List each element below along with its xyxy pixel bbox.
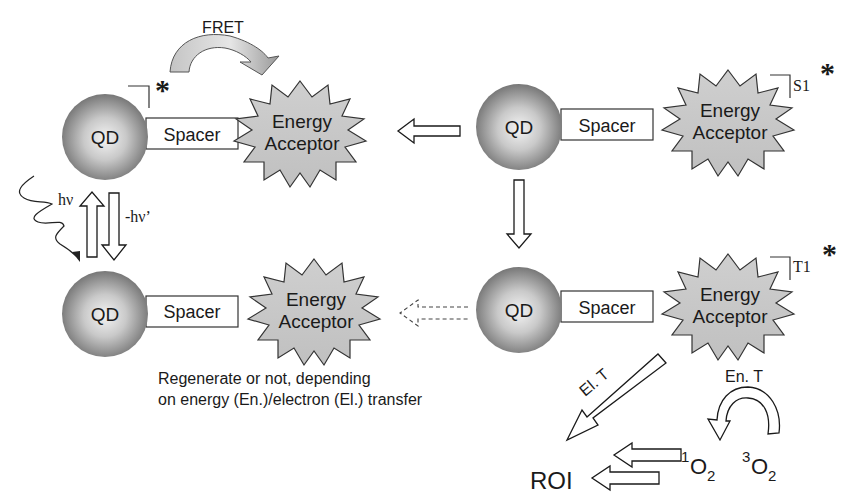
- state-label-s1: S1: [793, 77, 810, 94]
- acceptor-label-line2: Acceptor: [265, 133, 341, 154]
- electron-transfer: El. T: [567, 354, 666, 440]
- arrow-down-emit-icon: [102, 193, 126, 260]
- triplet-oxygen-sub: 2: [768, 467, 776, 484]
- conjugate-top-left: QD Spacer Energy Acceptor * FRET: [62, 19, 366, 187]
- spacer-label: Spacer: [163, 125, 220, 145]
- emission-label: -hν’: [125, 208, 151, 225]
- arrow-up-absorb-icon: [80, 192, 104, 257]
- acceptor-label-line1: Energy: [272, 111, 333, 132]
- fret-label: FRET: [202, 19, 244, 36]
- arrow-to-roi-icon: [592, 466, 659, 490]
- arrow-left-icon: [398, 119, 460, 143]
- electron-transfer-label: El. T: [576, 365, 612, 399]
- absorption-label: hν: [58, 191, 73, 208]
- conjugate-bottom-right: QD Spacer Energy Acceptor T1 *: [476, 237, 837, 360]
- excited-state-asterisk: *: [820, 56, 835, 89]
- spacer-label: Spacer: [578, 116, 635, 136]
- energy-transfer-label: En. T: [725, 368, 763, 385]
- energy-transfer: En. T: [708, 368, 779, 440]
- arrow-electron-transfer-icon: [567, 354, 666, 440]
- triplet-oxygen-base: O: [751, 454, 768, 479]
- arrow-energy-transfer-icon: [708, 387, 779, 440]
- qd-label: QD: [505, 117, 534, 138]
- qd-label: QD: [505, 300, 534, 321]
- products: ROI 1 O 2 3 O 2: [530, 443, 776, 494]
- acceptor-label-line1: Energy: [700, 284, 761, 305]
- arrow-down-icon: [507, 180, 531, 248]
- arrow-left-dashed-icon: [400, 300, 468, 326]
- diagram-canvas: QD Spacer Energy Acceptor * FRET QD Spac…: [0, 0, 862, 502]
- fret-arrow-icon: [170, 35, 279, 76]
- conjugate-bottom-left: QD Spacer Energy Acceptor: [62, 259, 380, 365]
- light-wave-arrowhead-icon: [72, 251, 80, 262]
- caption-line1: Regenerate or not, depending: [158, 370, 371, 387]
- singlet-oxygen-sup: 1: [681, 448, 689, 465]
- qd-label: QD: [91, 304, 120, 325]
- triplet-oxygen-sup: 3: [742, 448, 750, 465]
- arrow-singlet-to-roi-icon: [614, 443, 681, 467]
- roi-label: ROI: [530, 467, 573, 494]
- spacer-label: Spacer: [578, 298, 635, 318]
- excited-state-asterisk: *: [155, 73, 170, 106]
- qd-label: QD: [91, 127, 120, 148]
- acceptor-label-line1: Energy: [700, 100, 761, 121]
- excited-state-asterisk: *: [822, 237, 837, 270]
- acceptor-label-line2: Acceptor: [693, 306, 769, 327]
- caption: Regenerate or not, depending on energy (…: [158, 370, 423, 408]
- excitation-emission: hν -hν’: [19, 176, 150, 262]
- spacer-label: Spacer: [163, 302, 220, 322]
- singlet-oxygen-base: O: [690, 454, 707, 479]
- light-wave-icon: [19, 176, 76, 256]
- caption-line2: on energy (En.)/electron (El.) transfer: [158, 391, 423, 408]
- acceptor-label-line1: Energy: [286, 289, 347, 310]
- acceptor-label-line2: Acceptor: [693, 122, 769, 143]
- conjugate-top-right: QD Spacer Energy Acceptor S1 *: [476, 56, 835, 176]
- singlet-oxygen-sub: 2: [707, 467, 715, 484]
- state-label-t1: T1: [793, 258, 811, 275]
- acceptor-label-line2: Acceptor: [279, 311, 355, 332]
